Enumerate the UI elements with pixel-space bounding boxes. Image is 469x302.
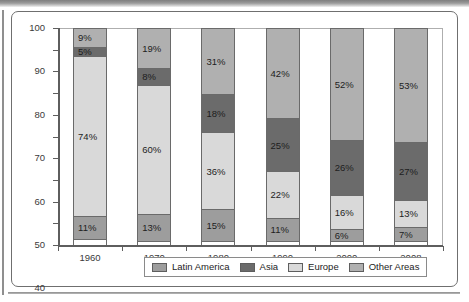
stacked-bar[interactable]: 42%25%22%11%	[266, 28, 300, 245]
y-axis-tick-label: 100	[29, 23, 45, 33]
y-axis-tick-label: 60	[34, 197, 45, 207]
bar-segment-value-label: 52%	[331, 80, 354, 90]
bar-segment[interactable]: 8%	[138, 68, 170, 85]
y-axis-tick: 70	[53, 93, 58, 94]
stacked-bar[interactable]: 53%27%13%7%	[394, 28, 428, 245]
bar-segment-value-label: 22%	[267, 190, 290, 200]
bar-segment-value-label: 26%	[331, 163, 354, 173]
y-axis-tick: 40	[53, 158, 58, 159]
x-axis-tick-label: 1960	[80, 253, 101, 263]
bar-segment-value-label: 11%	[267, 225, 289, 235]
page-left-margin-rule	[2, 10, 4, 295]
bar-segment[interactable]: 74%	[74, 56, 106, 217]
bar-segment-value-label: 36%	[202, 167, 225, 177]
x-axis-tick	[186, 246, 187, 251]
bar-segment-value-label: 8%	[138, 72, 156, 82]
legend-swatch-icon	[349, 263, 364, 272]
bar-segment[interactable]: 31%	[202, 28, 234, 95]
bar-segment-value-label: 6%	[331, 231, 349, 241]
y-axis-tick-label: 40	[34, 284, 45, 294]
bar-segment-value-label: 13%	[138, 223, 161, 233]
plot-area: 0102030405060708090100 19601970198019902…	[58, 28, 443, 245]
bar-segment-value-label: 18%	[202, 109, 225, 119]
legend-item[interactable]: Asia	[240, 262, 278, 272]
y-axis-tick: 60	[53, 115, 58, 116]
bar-segment[interactable]: 36%	[202, 132, 234, 210]
bar-segment-value-label: 15%	[202, 221, 225, 231]
bar-segment[interactable]: 13%	[395, 200, 427, 228]
legend-item[interactable]: Europe	[288, 262, 339, 272]
legend-item-label: Europe	[308, 262, 339, 272]
bar-segment[interactable]: 53%	[395, 28, 427, 143]
legend-item-label: Asia	[260, 262, 278, 272]
legend-item[interactable]: Other Areas	[349, 262, 420, 272]
x-axis-tick	[58, 246, 59, 251]
bar-segment-value-label: 31%	[202, 57, 225, 67]
x-axis-tick	[379, 246, 380, 251]
y-axis-tick-label: 50	[34, 240, 45, 250]
stacked-bar[interactable]: 9%5%74%11%	[73, 28, 107, 245]
bar-segment[interactable]: 52%	[331, 28, 363, 141]
bar-segment[interactable]: 60%	[138, 85, 170, 215]
x-axis-tick	[122, 246, 123, 251]
bar-segment-value-label: 19%	[138, 44, 161, 54]
x-axis-tick	[251, 246, 252, 251]
bar-segment[interactable]: 9%	[74, 28, 106, 48]
bar-segment-value-label: 74%	[74, 132, 97, 142]
chart-frame: 0102030405060708090100 19601970198019902…	[11, 11, 458, 287]
stacked-bar[interactable]: 52%26%16%6%	[330, 28, 364, 245]
scan-top-edge-band	[0, 0, 469, 7]
bar-segment[interactable]: 11%	[267, 218, 299, 242]
bar-segment[interactable]: 26%	[331, 140, 363, 196]
plot-right-border	[442, 28, 443, 245]
stacked-bar[interactable]: 19%8%60%13%	[137, 28, 171, 245]
y-axis-tick: 50	[53, 137, 58, 138]
x-axis-tick	[315, 246, 316, 251]
y-axis-tick-label: 80	[34, 110, 45, 120]
chart-legend: Latin AmericaAsiaEuropeOther Areas	[144, 257, 427, 277]
y-axis-tick-label: 90	[34, 67, 45, 77]
bar-segment[interactable]: 16%	[331, 195, 363, 230]
y-axis-tick: 80	[53, 71, 58, 72]
bar-segment-value-label: 16%	[331, 208, 354, 218]
y-axis-tick-label: 70	[34, 153, 45, 163]
bar-segment-value-label: 11%	[74, 223, 96, 233]
y-axis-tick: 90	[53, 50, 58, 51]
bar-segment-value-label: 25%	[267, 141, 290, 151]
y-axis-tick: 20	[53, 202, 58, 203]
bar-segment[interactable]: 6%	[331, 229, 363, 242]
bar-segment-value-label: 60%	[138, 145, 161, 155]
stacked-bar[interactable]: 31%18%36%15%	[201, 28, 235, 245]
legend-swatch-icon	[240, 263, 255, 272]
bar-segment[interactable]: 25%	[267, 118, 299, 172]
y-axis-line	[58, 28, 60, 246]
bar-segment[interactable]: 22%	[267, 171, 299, 219]
legend-item[interactable]: Latin America	[152, 262, 230, 272]
bar-segment[interactable]: 19%	[138, 28, 170, 69]
legend-swatch-icon	[288, 263, 303, 272]
bar-segment-value-label: 13%	[395, 209, 418, 219]
bar-segment-value-label: 27%	[395, 167, 418, 177]
x-axis-tick	[443, 246, 444, 251]
y-axis-tick: 100	[53, 28, 58, 29]
plot-top-border	[58, 28, 443, 29]
bar-segment[interactable]: 42%	[267, 28, 299, 119]
bar-segment-value-label: 5%	[74, 47, 92, 57]
bar-segment[interactable]: 18%	[202, 94, 234, 133]
page-bottom-rule	[8, 292, 460, 294]
bar-segment-value-label: 7%	[395, 230, 413, 240]
bar-segment[interactable]: 13%	[138, 214, 170, 242]
bar-segment-value-label: 9%	[74, 33, 92, 43]
legend-swatch-icon	[152, 263, 167, 272]
bar-segment[interactable]: 27%	[395, 142, 427, 201]
bar-segment[interactable]: 15%	[202, 209, 234, 242]
legend-item-label: Latin America	[172, 262, 230, 272]
bar-segment[interactable]: 11%	[74, 216, 106, 240]
legend-item-label: Other Areas	[369, 262, 420, 272]
bar-segment-value-label: 42%	[267, 69, 290, 79]
y-axis-tick: 30	[53, 180, 58, 181]
bar-segment[interactable]: 7%	[395, 227, 427, 242]
bar-segment-value-label: 53%	[395, 81, 418, 91]
y-axis-tick: 10	[53, 223, 58, 224]
